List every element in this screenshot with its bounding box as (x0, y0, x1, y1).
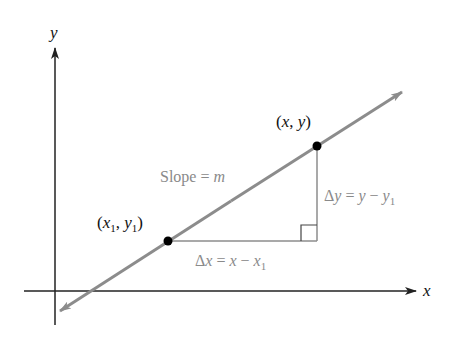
equals: = (341, 187, 358, 204)
point-2-label: (x, y) (276, 112, 311, 131)
paren-close: ) (305, 112, 311, 131)
y-var: y (296, 112, 306, 131)
point-x1-y1 (164, 237, 173, 246)
x-axis-label: x (422, 281, 431, 300)
delta-x-var: x (204, 252, 212, 269)
slope-label: Slope = m (160, 168, 225, 186)
y1-var: y (122, 213, 132, 232)
comma: , (116, 213, 125, 232)
x1-term: x (253, 252, 261, 269)
slope-diagram: x y (x1, y1) (x, y) Slope = m Δy = y − y… (0, 0, 451, 340)
minus: − (366, 187, 383, 204)
x-term: x (228, 252, 236, 269)
comma: , (289, 112, 298, 131)
paren-close: ) (137, 213, 143, 232)
slope-prefix: Slope = (160, 168, 213, 186)
delta-symbol: Δ (324, 187, 334, 204)
equals: = (212, 252, 229, 269)
y-axis-label: y (48, 23, 58, 42)
minus: − (237, 252, 254, 269)
right-angle-marker (301, 225, 317, 241)
point-x-y (313, 142, 322, 151)
delta-x-label: Δx = x − x1 (195, 252, 266, 272)
slope-var: m (213, 168, 225, 185)
delta-symbol: Δ (195, 252, 205, 269)
y1-subscript: 1 (390, 195, 396, 207)
x1-subscript: 1 (261, 260, 267, 272)
delta-y-label: Δy = y − y1 (324, 187, 395, 207)
point-1-label: (x1, y1) (97, 213, 143, 234)
